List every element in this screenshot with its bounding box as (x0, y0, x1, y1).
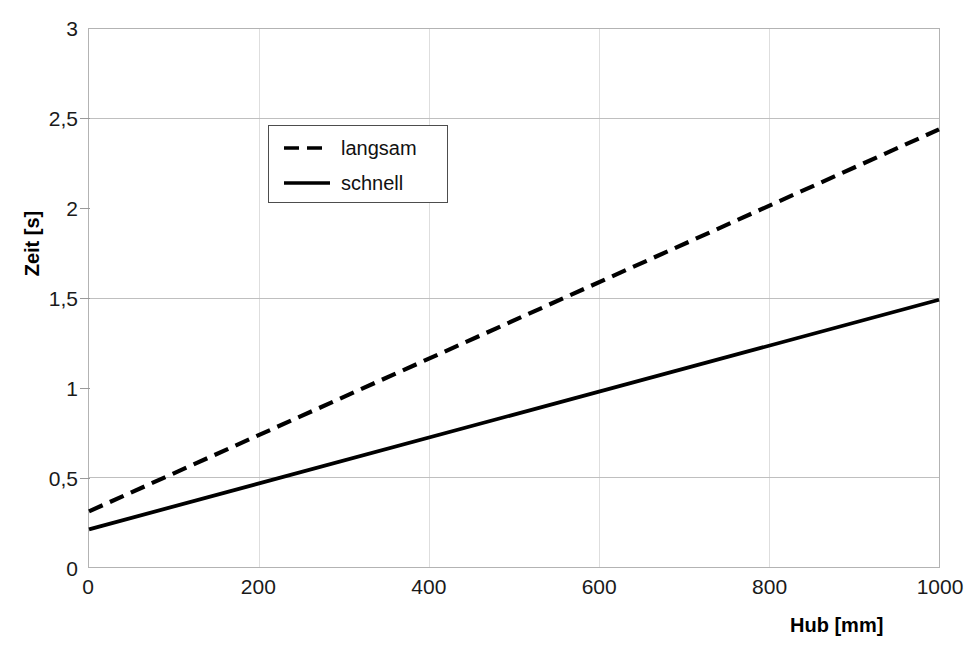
x-axis-tick-label: 200 (241, 576, 276, 597)
x-axis-tick-label: 1000 (917, 576, 964, 597)
data-series-group (89, 29, 939, 567)
legend-swatch-dashed (284, 141, 330, 155)
x-axis-tick-label: 800 (752, 576, 787, 597)
legend-swatch-solid (284, 176, 330, 190)
y-axis-title: Zeit [s] (21, 184, 44, 304)
y-axis-tick-label: 2,5 (49, 108, 78, 129)
x-axis-title: Hub [mm] (790, 614, 883, 637)
y-axis-tick-label: 0,5 (49, 468, 78, 489)
legend-label-schnell: schnell (341, 173, 403, 193)
y-axis-tick-label: 1 (66, 378, 78, 399)
y-axis-tick-label: 3 (66, 18, 78, 39)
chart-figure: 00,511,522,53 02004006008001000 Zeit [s]… (0, 0, 971, 645)
plot-area (88, 28, 940, 568)
x-axis-tick-labels: 02004006008001000 (88, 576, 940, 606)
y-axis-tick-label: 0 (66, 558, 78, 579)
legend-label-langsam: langsam (341, 138, 417, 158)
x-axis-tick-label: 0 (82, 576, 94, 597)
y-axis-tick-label: 2 (66, 198, 78, 219)
chart-legend: langsam schnell (268, 125, 448, 203)
legend-entry-langsam: langsam (269, 131, 447, 165)
legend-entry-schnell: schnell (269, 166, 447, 200)
y-axis-tick-marks (78, 28, 90, 568)
x-axis-tick-label: 600 (582, 576, 617, 597)
y-axis-tick-label: 1,5 (49, 288, 78, 309)
x-axis-tick-label: 400 (411, 576, 446, 597)
